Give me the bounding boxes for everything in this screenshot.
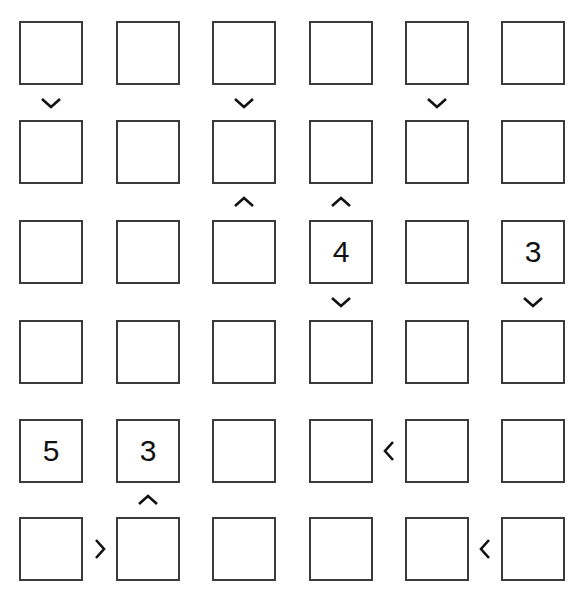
grid-cell-r3c3[interactable] (212, 220, 276, 284)
grid-cell-r4c2[interactable] (116, 320, 180, 384)
grid-cell-r3c1[interactable] (19, 220, 83, 284)
grid-cell-r5c4[interactable] (309, 419, 373, 483)
grid-cell-r1c6[interactable] (501, 21, 565, 85)
grid-cell-r6c1[interactable] (19, 517, 83, 581)
chevron-down-icon (522, 295, 544, 309)
grid-cell-r1c1[interactable] (19, 21, 83, 85)
grid-cell-r5c2[interactable]: 3 (116, 419, 180, 483)
grid-cell-r5c3[interactable] (212, 419, 276, 483)
grid-cell-r6c4[interactable] (309, 517, 373, 581)
grid-cell-r6c2[interactable] (116, 517, 180, 581)
less-than-icon (382, 440, 396, 462)
greater-than-icon (93, 538, 107, 560)
grid-cell-r4c6[interactable] (501, 320, 565, 384)
grid-cell-r3c6[interactable]: 3 (501, 220, 565, 284)
grid-cell-r2c1[interactable] (19, 120, 83, 184)
chevron-down-icon (426, 96, 448, 110)
chevron-down-icon (233, 96, 255, 110)
grid-cell-r5c6[interactable] (501, 419, 565, 483)
grid-cell-r1c3[interactable] (212, 21, 276, 85)
grid-cell-r6c6[interactable] (501, 517, 565, 581)
grid-cell-r2c2[interactable] (116, 120, 180, 184)
grid-cell-r5c1[interactable]: 5 (19, 419, 83, 483)
chevron-up-icon (137, 493, 159, 507)
chevron-up-icon (330, 195, 352, 209)
less-than-icon (478, 538, 492, 560)
grid-cell-r2c6[interactable] (501, 120, 565, 184)
grid-cell-r1c4[interactable] (309, 21, 373, 85)
chevron-down-icon (40, 96, 62, 110)
chevron-up-icon (233, 195, 255, 209)
grid-cell-r1c5[interactable] (405, 21, 469, 85)
grid-cell-r5c5[interactable] (405, 419, 469, 483)
grid-cell-r3c2[interactable] (116, 220, 180, 284)
grid-cell-r4c3[interactable] (212, 320, 276, 384)
grid-cell-r2c3[interactable] (212, 120, 276, 184)
chevron-down-icon (330, 295, 352, 309)
grid-cell-r4c1[interactable] (19, 320, 83, 384)
grid-cell-r2c4[interactable] (309, 120, 373, 184)
grid-cell-r3c4[interactable]: 4 (309, 220, 373, 284)
grid-cell-r4c5[interactable] (405, 320, 469, 384)
grid-cell-r6c5[interactable] (405, 517, 469, 581)
grid-cell-r4c4[interactable] (309, 320, 373, 384)
grid-cell-r1c2[interactable] (116, 21, 180, 85)
grid-cell-r3c5[interactable] (405, 220, 469, 284)
grid-cell-r2c5[interactable] (405, 120, 469, 184)
grid-cell-r6c3[interactable] (212, 517, 276, 581)
